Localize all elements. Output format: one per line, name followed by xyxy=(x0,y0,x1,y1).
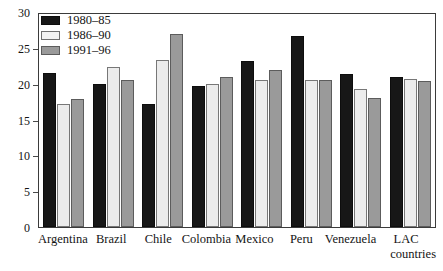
legend-item: 1991–96 xyxy=(41,44,111,56)
x-axis-label: Peru xyxy=(278,232,325,271)
y-tick-mark xyxy=(33,121,38,122)
bar xyxy=(206,84,219,227)
bar xyxy=(269,70,282,227)
bar xyxy=(57,104,70,227)
x-axis-label-line1: Chile xyxy=(145,232,172,246)
legend-item: 1980–85 xyxy=(41,14,111,26)
legend-item-label: 1991–96 xyxy=(67,44,111,56)
x-axis-label-line1: Argentina xyxy=(38,232,88,246)
bar xyxy=(368,98,381,227)
x-axis-label: Mexico xyxy=(231,232,278,271)
bar xyxy=(241,61,254,227)
x-axis-label-line1: Mexico xyxy=(235,232,273,246)
bar xyxy=(93,84,106,227)
bar-group xyxy=(138,14,188,227)
y-tick-mark xyxy=(33,49,38,50)
bar xyxy=(121,80,134,227)
y-tick-mark xyxy=(33,85,38,86)
x-axis-label: Colombia xyxy=(182,232,231,271)
bar-group xyxy=(237,14,287,227)
bar xyxy=(156,60,169,227)
bar xyxy=(192,86,205,227)
y-tick-label: 20 xyxy=(4,79,30,91)
x-axis-labels: ArgentinaBrazilChileColombiaMexicoPeruVe… xyxy=(38,232,436,271)
y-tick-label: 0 xyxy=(4,222,30,234)
bar xyxy=(170,34,183,227)
y-tick-label: 10 xyxy=(4,150,30,162)
legend-item-label: 1986–90 xyxy=(67,29,111,41)
y-axis: 302520151050 xyxy=(0,0,30,271)
bar xyxy=(107,67,120,227)
x-axis-label: LACcountries xyxy=(376,232,436,271)
y-tick-mark xyxy=(33,192,38,193)
bar xyxy=(340,74,353,227)
bar xyxy=(390,77,403,228)
x-axis-label-line1: LAC xyxy=(394,232,419,246)
bar xyxy=(142,104,155,227)
bar xyxy=(291,36,304,227)
bar-chart: 302520151050 1980–851986–901991–96 Argen… xyxy=(0,0,443,271)
bar xyxy=(305,80,318,227)
bar xyxy=(255,80,268,227)
legend-swatch-icon xyxy=(41,16,60,25)
y-tick-label: 25 xyxy=(4,43,30,55)
bar xyxy=(404,79,417,227)
bar xyxy=(418,81,431,227)
x-axis-label-line1: Brazil xyxy=(96,232,127,246)
y-tick-label: 15 xyxy=(4,115,30,127)
x-axis-label-line2: countries xyxy=(376,247,436,262)
x-axis-label: Brazil xyxy=(88,232,135,271)
x-axis-label: Argentina xyxy=(38,232,88,271)
bar-group xyxy=(336,14,386,227)
y-tick-mark xyxy=(33,156,38,157)
bar-group xyxy=(188,14,238,227)
bar xyxy=(43,73,56,227)
y-tick-label: 30 xyxy=(4,7,30,19)
legend-item-label: 1980–85 xyxy=(67,14,111,26)
x-axis-label-line1: Venezuela xyxy=(325,232,376,246)
x-axis-label-line1: Colombia xyxy=(182,232,231,246)
legend-swatch-icon xyxy=(41,31,60,40)
legend-item: 1986–90 xyxy=(41,29,111,41)
bar xyxy=(354,89,367,227)
legend-swatch-icon xyxy=(41,46,60,55)
bar xyxy=(71,99,84,227)
x-axis-label-line1: Peru xyxy=(290,232,313,246)
bar xyxy=(220,77,233,227)
legend: 1980–851986–901991–96 xyxy=(41,14,111,56)
bar-group xyxy=(287,14,337,227)
bar xyxy=(319,80,332,227)
x-axis-label: Venezuela xyxy=(325,232,376,271)
bar-group xyxy=(386,14,436,227)
y-tick-label: 5 xyxy=(4,186,30,198)
x-axis-label: Chile xyxy=(135,232,182,271)
